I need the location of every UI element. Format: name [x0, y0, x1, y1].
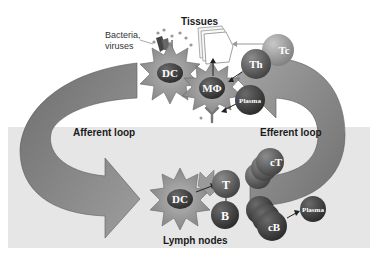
plasma-node-label: Plasma	[302, 206, 324, 214]
pathogens	[140, 28, 193, 52]
plasma-cell-tissue: Plasma	[235, 85, 265, 115]
th-label: Th	[249, 58, 262, 70]
t-label: T	[222, 178, 230, 192]
t-cell: T	[212, 170, 240, 198]
macrophage-label: MΦ	[202, 82, 222, 94]
pathogens-label-line2: viruses	[105, 41, 134, 51]
efferent-loop-label: Efferent loop	[260, 127, 322, 138]
ct-label: cT	[270, 156, 283, 168]
tissues-label: Tissues	[181, 16, 218, 27]
dc-node-star: DC	[150, 168, 222, 230]
plasma-cell-node: Plasma	[300, 196, 326, 222]
cb-label: cB	[268, 221, 281, 233]
lymph-nodes-label: Lymph nodes	[163, 235, 228, 246]
immune-response-diagram: DC MΦ Tc Th	[0, 0, 370, 259]
afferent-loop-label: Afferent loop	[73, 127, 135, 138]
th-cell: Th	[241, 49, 271, 79]
dc-tissue-label: DC	[162, 67, 178, 79]
pathogens-label-line1: Bacteria,	[105, 30, 141, 40]
afferent-loop-arrow	[20, 63, 140, 238]
tissue-icon	[198, 26, 233, 64]
plasma-tissue-label: Plasma	[239, 97, 261, 105]
dc-node-label: DC	[172, 193, 188, 205]
b-cell: B	[211, 201, 239, 229]
tc-label: Tc	[278, 44, 289, 56]
antibody-icon	[200, 108, 219, 122]
cb-to-plasma-arrow	[287, 210, 300, 218]
b-label: B	[221, 209, 229, 223]
